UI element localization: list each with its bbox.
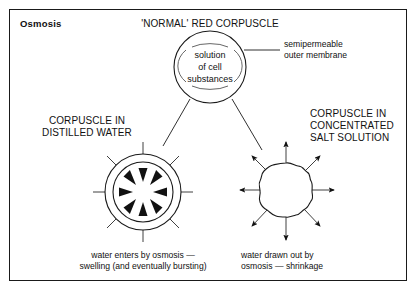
right-heading-line-3: SALT SOLUTION bbox=[310, 132, 389, 143]
right-caption-line-2: osmosis — shrinkage bbox=[241, 261, 323, 271]
membrane-label-line-1: semipermeable bbox=[284, 39, 343, 49]
right-heading-line-1: CORPUSCLE IN bbox=[310, 108, 386, 119]
normal-corpuscle-heading: 'NORMAL' RED CORPUSCLE bbox=[141, 18, 279, 29]
right-caption-line-1: water drawn out by bbox=[240, 250, 314, 260]
cell-text-line-2: of cell bbox=[198, 62, 222, 72]
connector-to-right bbox=[232, 99, 262, 150]
crenated-cell-shape bbox=[259, 163, 313, 217]
left-caption-line-2: swelling (and eventually bursting) bbox=[79, 261, 206, 271]
left-heading-line-1: CORPUSCLE IN bbox=[49, 115, 125, 126]
shrunken-corpuscle bbox=[240, 142, 334, 240]
left-heading-line-2: DISTILLED WATER bbox=[42, 127, 132, 138]
cell-text-line-3: substances bbox=[187, 74, 233, 84]
figure-title: Osmosis bbox=[20, 18, 62, 29]
left-caption-line-1: water enters by osmosis — bbox=[90, 250, 195, 260]
membrane-label-line-2: outer membrane bbox=[284, 50, 347, 60]
diagram-canvas: Osmosis 'NORMAL' RED CORPUSCLE solution … bbox=[0, 0, 417, 292]
osmosis-diagram: Osmosis 'NORMAL' RED CORPUSCLE solution … bbox=[0, 0, 417, 292]
cell-text-line-1: solution bbox=[194, 50, 225, 60]
right-heading-line-2: CONCENTRATED bbox=[310, 120, 394, 131]
connector-to-left bbox=[163, 99, 190, 146]
swollen-corpuscle bbox=[93, 142, 193, 242]
